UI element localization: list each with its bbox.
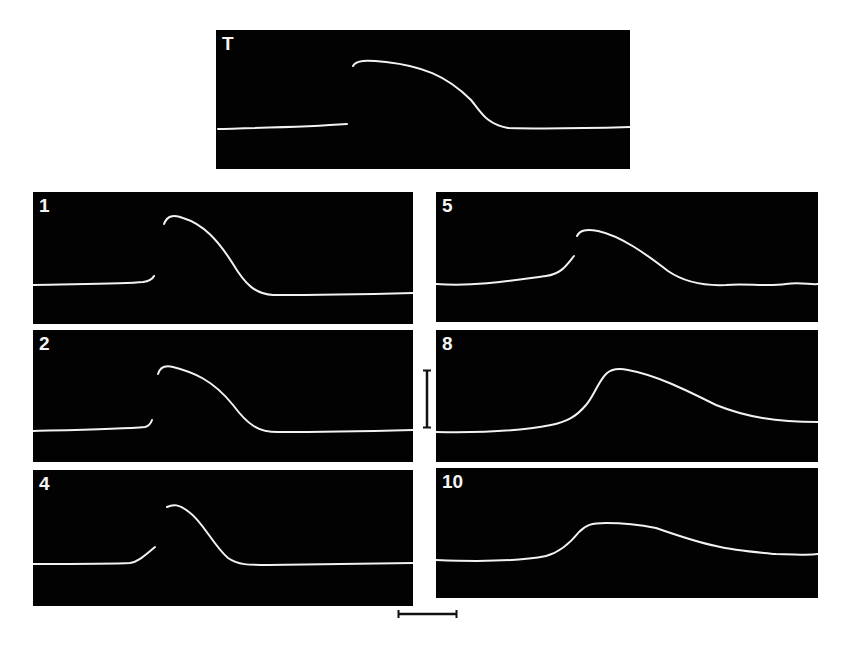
trace-panel-8: 8 [436, 330, 818, 462]
panel-label: 2 [39, 334, 50, 353]
trace-panel-5: 5 [436, 192, 818, 322]
trace-waveform [436, 330, 818, 462]
panel-label: 1 [39, 196, 50, 215]
trace-panel-4: 4 [33, 470, 413, 606]
panel-label: 10 [442, 472, 463, 491]
panel-label: T [222, 34, 234, 53]
trace-waveform [33, 470, 413, 606]
trace-waveform [33, 330, 413, 462]
horizontal-scale-bar [397, 609, 458, 619]
trace-panel-2: 2 [33, 330, 413, 462]
trace-waveform [436, 192, 818, 322]
trace-panel-10: 10 [436, 468, 818, 598]
panel-label: 8 [442, 334, 453, 353]
trace-waveform [436, 468, 818, 598]
panel-label: 4 [39, 474, 50, 493]
panel-label: 5 [442, 196, 453, 215]
trace-waveform [216, 30, 630, 169]
trace-waveform [33, 192, 413, 324]
vertical-scale-bar [421, 369, 433, 429]
trace-panel-T: T [216, 30, 630, 169]
trace-panel-1: 1 [33, 192, 413, 324]
